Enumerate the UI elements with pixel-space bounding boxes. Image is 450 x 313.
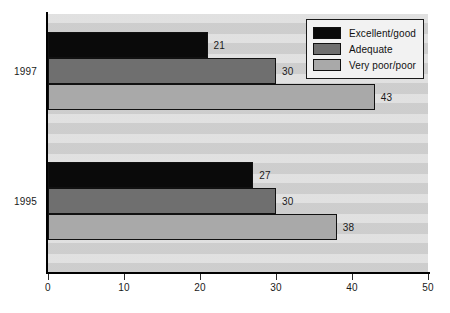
x-axis-tick-label: 0 xyxy=(45,282,51,293)
bar xyxy=(48,188,276,214)
legend-item: Excellent/good xyxy=(313,25,417,41)
x-axis-tick-label: 10 xyxy=(118,282,130,293)
x-axis-tick xyxy=(428,274,429,280)
bar-value-label: 30 xyxy=(282,66,294,77)
bar xyxy=(48,214,337,240)
black-swatch-icon xyxy=(313,27,341,39)
legend-item-label: Excellent/good xyxy=(349,28,416,39)
x-axis-tick xyxy=(124,274,125,280)
chart-screenshot: 213043273038 01020304050 19971995 Excell… xyxy=(0,0,450,313)
legend-item: Very poor/poor xyxy=(313,57,417,73)
light-gray-swatch-icon xyxy=(313,59,341,71)
y-axis-line xyxy=(46,12,48,274)
legend-item-label: Adequate xyxy=(349,44,393,55)
x-axis-tick-label: 30 xyxy=(270,282,282,293)
x-axis-tick-label: 40 xyxy=(346,282,358,293)
bar-value-label: 38 xyxy=(343,222,355,233)
legend-item-label: Very poor/poor xyxy=(349,60,416,71)
x-axis-tick xyxy=(352,274,353,280)
x-axis-tick xyxy=(200,274,201,280)
y-axis-category-label: 1997 xyxy=(14,66,37,77)
bar-value-label: 27 xyxy=(259,170,271,181)
x-axis-tick xyxy=(48,274,49,280)
x-axis-tick xyxy=(276,274,277,280)
bar xyxy=(48,162,253,188)
y-axis-category-label: 1995 xyxy=(14,196,37,207)
bar-value-label: 30 xyxy=(282,196,294,207)
bar-value-label: 21 xyxy=(214,40,226,51)
chart-legend: Excellent/good Adequate Very poor/poor xyxy=(306,19,424,79)
bar xyxy=(48,84,375,110)
bar xyxy=(48,58,276,84)
legend-item: Adequate xyxy=(313,41,417,57)
bar xyxy=(48,32,208,58)
x-axis-tick-label: 20 xyxy=(194,282,206,293)
x-axis-tick-label: 50 xyxy=(422,282,434,293)
bar-value-label: 43 xyxy=(381,92,393,103)
x-axis-line xyxy=(46,272,430,274)
dark-gray-swatch-icon xyxy=(313,43,341,55)
